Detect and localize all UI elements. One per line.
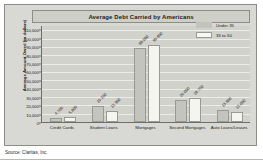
bar-value-label: 12,900	[109, 97, 121, 109]
y-tick-mark	[39, 47, 41, 48]
bar	[134, 48, 146, 122]
y-tick-mark	[39, 55, 41, 56]
y-tick-mark	[39, 106, 41, 107]
y-tick-mark	[39, 30, 41, 31]
bar-value-label: 13,800	[221, 96, 233, 108]
y-tick-mark	[39, 89, 41, 90]
chart-legend: Under 35 35 to 50	[196, 21, 252, 41]
x-tick-label: Auto Loans/Leases	[211, 125, 248, 130]
y-tick-mark	[39, 80, 41, 81]
legend-label-under-35: Under 35	[216, 23, 234, 28]
y-tick-label: 50,000	[9, 78, 39, 83]
y-tick-label: 80,000	[9, 53, 39, 58]
y-tick-label: 90,000	[9, 45, 39, 50]
legend-label-35-to-50: 35 to 50	[216, 33, 232, 38]
bar-value-label: 90,800	[151, 31, 163, 43]
x-tick-label: Student Loans	[90, 125, 118, 130]
y-tick-mark	[39, 114, 41, 115]
bar	[106, 111, 118, 122]
bar	[189, 98, 201, 122]
legend-item-under-35: Under 35	[196, 21, 252, 29]
y-tick-label: 70,000	[9, 61, 39, 66]
bar-value-label: 4,700	[53, 105, 64, 116]
bar	[64, 117, 76, 122]
bar-value-label: 88,000	[137, 34, 149, 46]
bar	[217, 110, 229, 122]
y-tick-mark	[39, 123, 41, 124]
y-tick-label: 20,000	[9, 104, 39, 109]
bar	[231, 112, 243, 122]
y-tick-label: 40,000	[9, 87, 39, 92]
y-tick-label: 110,000	[9, 28, 39, 33]
bar-value-label: 12,000	[235, 98, 247, 110]
source-note: Source: Claritas, Inc.	[5, 150, 48, 155]
y-tick-mark	[39, 38, 41, 39]
chart-title: Average Debt Carried by Americans	[88, 14, 193, 20]
chart-figure-frame: Average Debt Carried by Americans Averag…	[4, 4, 257, 146]
y-tick-label: 100,000	[9, 36, 39, 41]
bar	[148, 45, 160, 122]
bar-value-label: 19,250	[95, 92, 107, 104]
y-tick-mark	[39, 63, 41, 64]
bar	[92, 106, 104, 122]
y-tick-label: 0	[9, 121, 39, 126]
legend-swatch-icon-35-to-50	[196, 32, 212, 38]
x-tick-label: Credit Cards	[50, 125, 74, 130]
y-tick-label: 10,000	[9, 112, 39, 117]
x-tick-label: Mortgages	[135, 125, 155, 130]
legend-item-35-to-50: 35 to 50	[196, 31, 252, 39]
bar-value-label: 28,750	[193, 84, 205, 96]
y-tick-mark	[39, 72, 41, 73]
y-tick-label: 60,000	[9, 70, 39, 75]
bar-value-label: 26,000	[179, 86, 191, 98]
x-tick-label: Second Mortgages	[169, 125, 205, 130]
bar	[50, 118, 62, 122]
y-tick-mark	[39, 97, 41, 98]
legend-swatch-icon-under-35	[196, 22, 212, 28]
y-tick-label: 30,000	[9, 95, 39, 100]
bar	[175, 100, 187, 122]
bottom-band	[0, 160, 263, 166]
bar-value-label: 5,800	[67, 104, 78, 115]
chart-screenshot: Average Debt Carried by Americans Averag…	[0, 0, 263, 166]
